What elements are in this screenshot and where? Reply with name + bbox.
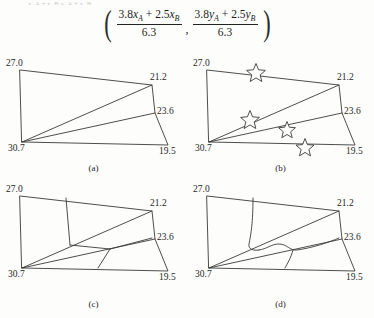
node-label-top-left: 27.0 (193, 58, 210, 68)
node-label-bottom-left: 30.7 (8, 143, 25, 153)
coordinate-formula: ( 3.8xA + 2.5xB 6.3 , 3.8yA + 2.5yB 6.3 … (0, 6, 374, 40)
x-op: + (146, 8, 153, 20)
node-label-mid-right: 23.6 (157, 106, 174, 116)
clipped-top-text: x_A + x_B y_A + y_B (28, 0, 178, 5)
y-sub2: B (251, 14, 256, 23)
x-numerator: 3.8xA + 2.5xB (116, 8, 183, 24)
node-label-bottom-right: 19.5 (159, 272, 176, 282)
node-label-bottom-right: 19.5 (159, 146, 176, 156)
x-denominator: 6.3 (116, 25, 183, 38)
triangulation-edge-2 (22, 239, 155, 268)
triangulation-edge-2 (209, 113, 342, 142)
triangulation-edge-1 (209, 211, 339, 268)
formula-comma: , (185, 22, 190, 37)
x-fraction: 3.8xA + 2.5xB 6.3 (114, 8, 185, 38)
node-label-top-left: 27.0 (6, 184, 23, 194)
x-coef1: 3.8 (119, 8, 133, 20)
y-op: + (222, 8, 229, 20)
triangulation-edge-2 (209, 239, 342, 268)
caption-b: (b) (187, 163, 374, 173)
mesh-outline (20, 70, 168, 145)
node-label-mid-right: 23.6 (157, 232, 174, 242)
triangulation-edge-1 (22, 85, 152, 142)
node-label-mid-right: 23.6 (344, 232, 361, 242)
node-label-bottom-left: 30.7 (8, 269, 25, 279)
star-marker-2 (241, 111, 260, 129)
triangulation-edge-1 (209, 85, 339, 142)
triangulation-edge-2 (22, 113, 155, 142)
curved-cell-border-3 (285, 250, 293, 268)
x-sub2: B (175, 14, 180, 23)
panel-d: 27.0 21.2 23.6 30.7 19.5 (187, 176, 374, 294)
node-label-top-right: 21.2 (337, 198, 354, 208)
panel-b: 27.0 21.2 23.6 30.7 19.5 (187, 50, 374, 168)
node-label-top-right: 21.2 (150, 72, 167, 82)
node-label-top-right: 21.2 (150, 198, 167, 208)
curved-cell-border-1 (249, 198, 259, 250)
y-fraction: 3.8yA + 2.5yB 6.3 (190, 8, 261, 38)
open-paren: ( (104, 6, 111, 40)
caption-a: (a) (0, 163, 187, 173)
node-label-bottom-left: 30.7 (195, 269, 212, 279)
caption-c: (c) (0, 299, 187, 309)
x-sub1: A (138, 14, 143, 23)
caption-d: (d) (187, 299, 374, 309)
node-label-top-right: 21.2 (337, 72, 354, 82)
cell-border-3 (110, 238, 152, 249)
node-label-bottom-left: 30.7 (195, 143, 212, 153)
y-coef1: 3.8 (195, 8, 209, 20)
triangulation-edge-1 (22, 211, 152, 268)
star-marker-1 (247, 64, 266, 82)
close-paren: ) (263, 6, 270, 40)
star-marker-4 (296, 139, 314, 156)
x-coef2: 2.5 (155, 8, 169, 20)
mesh-outline (207, 196, 355, 271)
cell-border-2 (70, 245, 110, 249)
mesh-outline (207, 70, 355, 145)
node-label-bottom-right: 19.5 (346, 146, 363, 156)
y-numerator: 3.8yA + 2.5yB (192, 8, 259, 24)
mesh-outline (20, 196, 168, 271)
figure-page: x_A + x_B y_A + y_B ( 3.8xA + 2.5xB 6.3 … (0, 0, 374, 318)
node-label-top-left: 27.0 (193, 184, 210, 194)
node-label-mid-right: 23.6 (344, 106, 361, 116)
y-coef2: 2.5 (231, 8, 245, 20)
node-label-top-left: 27.0 (6, 58, 23, 68)
y-denominator: 6.3 (192, 25, 259, 38)
y-sub1: A (214, 14, 219, 23)
node-label-bottom-right: 19.5 (346, 272, 363, 282)
panel-a: 27.0 21.2 23.6 30.7 19.5 (0, 50, 187, 168)
cell-border-1 (66, 198, 70, 245)
cell-border-4 (98, 249, 110, 268)
panel-c: 27.0 21.2 23.6 30.7 19.5 (0, 176, 187, 294)
